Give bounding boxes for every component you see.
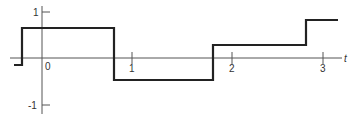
x-axis-label-t: t bbox=[344, 53, 348, 64]
x-tick-label-1: 1 bbox=[129, 63, 135, 74]
y-tick-label-1: 1 bbox=[33, 7, 39, 18]
x-tick-label-3: 3 bbox=[320, 63, 326, 74]
step-chart: 1 -1 0 1 2 3 t bbox=[0, 0, 356, 120]
signal-line bbox=[14, 20, 338, 80]
y-tick-label-neg1: -1 bbox=[28, 100, 37, 111]
x-tick-label-2: 2 bbox=[229, 63, 235, 74]
x-tick-label-0: 0 bbox=[45, 61, 51, 72]
